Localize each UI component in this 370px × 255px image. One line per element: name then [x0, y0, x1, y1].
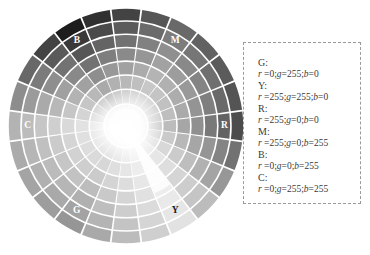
wheel-segment: [97, 49, 117, 65]
wheel-segment: [112, 231, 141, 243]
wheel-segment: [187, 135, 203, 155]
wheel-segment: [163, 120, 176, 132]
legend-entry-value: r =0;g=255;b=255: [258, 184, 356, 196]
wheel-label-c: C: [24, 120, 31, 130]
legend-entry-value: r =0;g=0;b=255: [258, 161, 356, 173]
legend-entry-value: r =0;g=255;b=0: [258, 69, 356, 81]
legend-entry-value: r =255;g=0;b=255: [258, 138, 356, 150]
wheel-segment: [177, 118, 190, 134]
wheel-segment: [49, 135, 65, 155]
legend-entry-value: r =255;g=255;b=0: [258, 92, 356, 104]
wheel-segment: [118, 62, 134, 75]
legend-entry-key: Y:: [258, 80, 356, 92]
wheel-segment: [115, 35, 137, 47]
wheel-segment: [115, 205, 137, 217]
wheel-segment: [191, 116, 203, 135]
wheel-center-glow: [91, 91, 162, 162]
wheel-segment: [120, 76, 132, 89]
wheel-segment: [62, 118, 75, 134]
wheel-segment: [116, 191, 135, 203]
wheel-segment: [97, 187, 117, 203]
wheel-segment: [205, 115, 217, 137]
rgb-legend-box: G:r =0;g=255;b=0Y:r =255;g=255;b=0R:r =2…: [243, 42, 361, 204]
wheel-label-m: M: [171, 35, 180, 45]
wheel-segment: [135, 187, 155, 203]
wheel-label-y: Y: [172, 205, 179, 215]
wheel-label-g: G: [73, 205, 81, 215]
wheel-segment: [112, 9, 141, 21]
wheel-segment: [35, 115, 47, 137]
wheel-segment: [49, 97, 65, 117]
legend-entry-key: B:: [258, 149, 356, 161]
rgb-legend-list: G:r =0;g=255;b=0Y:r =255;g=255;b=0R:r =2…: [258, 57, 356, 195]
color-wheel: MRYGCB: [8, 8, 244, 246]
wheel-segment: [76, 120, 89, 132]
wheel-segment: [135, 49, 155, 65]
figure-canvas: MRYGCB G:r =0;g=255;b=0Y:r =255;g=255;b=…: [0, 0, 370, 255]
wheel-segment: [48, 116, 60, 135]
color-wheel-svg: MRYGCB: [8, 8, 244, 246]
wheel-segment: [116, 48, 135, 60]
legend-entry-value: r =255;g=0;b=0: [258, 115, 356, 127]
wheel-label-r: R: [221, 120, 228, 130]
wheel-segment: [9, 112, 21, 141]
legend-entry-key: R:: [258, 103, 356, 115]
legend-entry-key: G:: [258, 57, 356, 69]
wheel-segment: [113, 22, 139, 34]
legend-entry-key: C:: [258, 172, 356, 184]
legend-entry-key: M:: [258, 126, 356, 138]
wheel-segment: [118, 177, 134, 190]
wheel-label-b: B: [74, 35, 81, 45]
wheel-segment: [187, 97, 203, 117]
wheel-segment: [231, 112, 243, 141]
wheel-segment: [113, 218, 139, 230]
wheel-segment: [120, 163, 132, 176]
wheel-sector-group: [9, 9, 243, 243]
